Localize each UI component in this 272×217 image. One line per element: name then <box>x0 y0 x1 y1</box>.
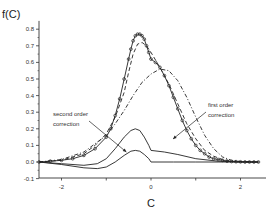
y-tick-label: 0.7 <box>26 43 35 49</box>
y-tick-label: 0.8 <box>26 26 35 32</box>
annotation-second-order: second order <box>53 111 88 117</box>
x-tick-label: -2 <box>59 184 65 190</box>
annotations: second ordercorrectionfirst ordercorrect… <box>53 102 234 152</box>
annotation-first-order-line2: correction <box>208 112 234 118</box>
annotation-second-order-line2: correction <box>53 121 79 127</box>
y-tick-label: 0.2 <box>26 126 35 132</box>
annotation-first-order: first order <box>208 102 233 108</box>
y-tick-label: -0.1 <box>24 176 35 182</box>
chart: -0.10.00.10.20.30.40.50.60.70.8-202 f(C)… <box>0 0 272 217</box>
plot-area <box>38 33 260 169</box>
y-tick-label: 0.3 <box>26 109 35 115</box>
x-tick-label: 2 <box>239 184 243 190</box>
series-line-1 <box>39 34 258 162</box>
y-tick-label: 0.1 <box>26 142 35 148</box>
y-tick-label: 0.0 <box>26 159 35 165</box>
x-axis-label: C <box>147 197 155 209</box>
y-tick-label: 0.6 <box>26 59 35 65</box>
y-tick-label: 0.4 <box>26 93 35 99</box>
y-axis-label: f(C) <box>2 8 20 20</box>
x-tick-label: 0 <box>149 184 153 190</box>
y-tick-label: 0.5 <box>26 76 35 82</box>
